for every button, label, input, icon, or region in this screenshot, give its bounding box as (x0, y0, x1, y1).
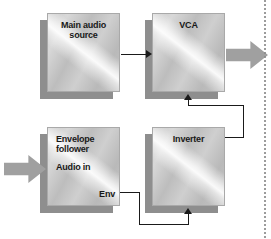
block-title-inverter: Inverter (152, 134, 225, 144)
block-envelope-follower[interactable]: Envelope follower Audio in Env (47, 127, 120, 206)
wire-main-to-vca (121, 54, 147, 55)
arrowhead-inverter-to-vca-icon (184, 94, 192, 100)
block-title-vca: VCA (152, 20, 225, 30)
wire-inverter-to-vca-drop (188, 100, 189, 106)
wire-env-exit (120, 192, 140, 193)
wire-inverter-riser (243, 105, 244, 138)
arrowhead-env-to-inverter-icon (184, 208, 192, 214)
block-vca[interactable]: VCA (152, 13, 225, 92)
block-label-layer: Inverter (152, 127, 225, 206)
block-title-envelope-follower: Envelope follower (56, 134, 115, 154)
arrowhead-main-to-vca-icon (146, 50, 152, 58)
block-inverter[interactable]: Inverter (152, 127, 225, 206)
signal-flow-diagram: Main audio source VCA Envelope follower … (0, 0, 271, 239)
block-title-main-audio-source: Main audio source (47, 20, 120, 40)
block-label-layer: Envelope follower Audio in Env (47, 127, 120, 206)
vca-output-arrow-icon (226, 41, 268, 69)
wire-inverter-exit (225, 137, 244, 138)
port-label-audio-in: Audio in (56, 162, 90, 172)
wire-inverter-to-vca-run (188, 105, 244, 106)
port-label-env-out: Env (99, 189, 115, 199)
block-label-layer: VCA (152, 13, 225, 92)
page-margin-rule (264, 0, 266, 239)
block-label-layer: Main audio source (47, 13, 120, 92)
wire-env-riser (188, 214, 189, 225)
wire-env-drop (139, 192, 140, 225)
wire-env-bottom-run (139, 224, 189, 225)
block-main-audio-source[interactable]: Main audio source (47, 13, 120, 92)
